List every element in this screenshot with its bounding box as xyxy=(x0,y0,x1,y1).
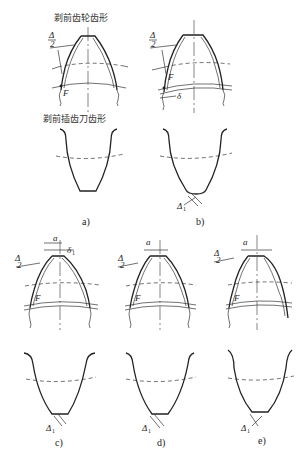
panel-e-cutter-tooth: Δ 1 e) xyxy=(228,350,294,447)
svg-text:Δ: Δ xyxy=(45,423,51,433)
caption-a: a) xyxy=(82,216,90,228)
svg-text:Δ: Δ xyxy=(141,423,147,433)
panel-b-cutter-tooth: Δ 1 b) xyxy=(160,129,232,228)
svg-text:F: F xyxy=(233,293,240,303)
svg-text:Δ: Δ xyxy=(240,423,246,433)
gear-profile-title: 剃前齿轮齿形 xyxy=(54,12,108,23)
cutter-profile xyxy=(60,129,117,191)
caption-e: e) xyxy=(258,435,266,447)
delta-label: δ xyxy=(177,91,182,101)
svg-text:a: a xyxy=(146,237,151,247)
point-F-label: F xyxy=(62,88,69,98)
svg-text:2: 2 xyxy=(216,255,221,265)
svg-text:1: 1 xyxy=(247,428,250,434)
svg-text:2: 2 xyxy=(120,260,125,270)
svg-text:1: 1 xyxy=(52,428,55,434)
panel-c-cutter-tooth: Δ 1 c) xyxy=(24,353,96,449)
root-circle xyxy=(158,84,232,90)
caption-b: b) xyxy=(196,216,204,228)
svg-text:F: F xyxy=(134,293,141,303)
panel-d-cutter-tooth: Δ 1 d) xyxy=(126,353,196,449)
svg-text:a: a xyxy=(53,233,58,243)
panel-c-gear-tooth: a δ 1 Δ 2 F xyxy=(14,233,100,330)
svg-text:1: 1 xyxy=(148,428,151,434)
panel-b-gear-tooth: Δ 2 F δ xyxy=(149,20,232,113)
panel-d-gear-tooth: a Δ 2 F xyxy=(117,237,196,330)
svg-text:F: F xyxy=(34,293,41,303)
caption-d: d) xyxy=(157,437,165,449)
panel-a-gear-tooth: Δ 2 F xyxy=(48,27,128,112)
tooth-profile-left xyxy=(61,36,81,90)
svg-text:a: a xyxy=(243,237,248,247)
svg-text:1: 1 xyxy=(183,206,186,212)
svg-text:2: 2 xyxy=(50,39,55,49)
cutter-profile-title: 剃前插齿刀齿形 xyxy=(43,113,106,124)
panel-a-cutter-tooth: a) xyxy=(56,129,124,228)
panel-e-gear-tooth: a Δ 2 F xyxy=(213,235,292,330)
caption-c: c) xyxy=(55,437,63,449)
svg-text:2: 2 xyxy=(151,39,156,49)
gear-profile-diagram: 剃前齿轮齿形 剃前插齿刀齿形 Δ 2 F a) xyxy=(0,0,306,463)
svg-text:2: 2 xyxy=(17,260,22,270)
pitch-circle xyxy=(58,63,124,67)
svg-text:Δ: Δ xyxy=(176,201,182,211)
svg-text:F: F xyxy=(167,72,174,82)
svg-text:1: 1 xyxy=(72,250,75,256)
cutter-pitch-circle xyxy=(56,154,124,159)
